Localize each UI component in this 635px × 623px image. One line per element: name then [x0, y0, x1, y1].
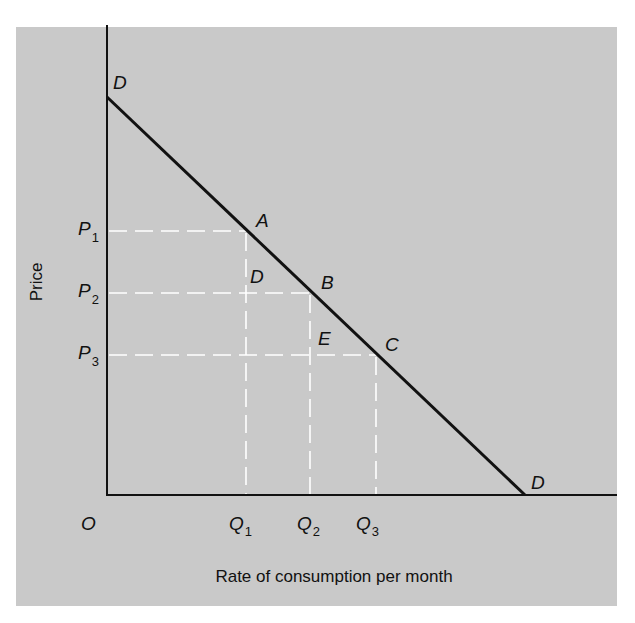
demand-curve-diagram: D D A D B E C P1 P2 P3 O Q1 Q2 Q3 Rate o… — [0, 0, 635, 623]
curve-label-bottom: D — [531, 472, 545, 493]
point-e-label: E — [318, 328, 331, 349]
point-d-label: D — [250, 266, 264, 287]
point-b-label: B — [321, 272, 334, 293]
quantity-level-3: Q3 — [356, 513, 379, 539]
origin-label: O — [81, 513, 96, 534]
point-a-label: A — [255, 210, 269, 231]
price-level-1: P1 — [78, 218, 99, 245]
quantity-level-1: Q1 — [229, 513, 252, 539]
y-axis-label: Price — [27, 263, 46, 302]
dashed-guides — [109, 231, 376, 494]
demand-curve — [107, 97, 525, 495]
curve-label-top: D — [113, 72, 127, 93]
price-level-3: P3 — [78, 342, 99, 369]
price-level-2: P2 — [78, 280, 99, 307]
quantity-level-2: Q2 — [297, 513, 320, 539]
x-axis-label: Rate of consumption per month — [215, 567, 452, 586]
point-c-label: C — [385, 334, 399, 355]
